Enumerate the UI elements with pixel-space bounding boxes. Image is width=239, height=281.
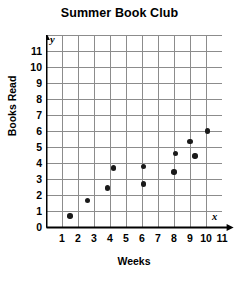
data-point xyxy=(171,169,176,174)
x-axis-title: Weeks xyxy=(45,255,223,267)
y-tick-label: 3 xyxy=(26,174,42,185)
data-point xyxy=(187,139,192,144)
y-tick-label: 10 xyxy=(26,62,42,73)
y-tick-label: 1 xyxy=(26,206,42,217)
y-tick-label: 9 xyxy=(26,78,42,89)
gridlines xyxy=(46,35,222,228)
data-point xyxy=(205,128,210,133)
chart-title: Summer Book Club xyxy=(0,6,239,20)
origin-label: 0 xyxy=(26,222,42,233)
data-point xyxy=(192,153,197,158)
y-tick-label: 6 xyxy=(26,126,42,137)
y-axis-title: Books Read xyxy=(6,64,18,148)
y-tick-label: 5 xyxy=(26,142,42,153)
y-tick-label: 8 xyxy=(26,94,42,105)
data-point xyxy=(111,165,116,170)
data-point xyxy=(67,213,72,218)
y-tick-label: 2 xyxy=(26,190,42,201)
x-tick-label: 11 xyxy=(213,233,231,244)
scatter-plot-figure: Summer Book Club Books Read Weeks y x 0 … xyxy=(0,0,239,281)
data-point xyxy=(105,185,110,190)
plot-area xyxy=(46,35,222,228)
y-tick-label: 7 xyxy=(26,110,42,121)
y-tick-label: 4 xyxy=(26,158,42,169)
data-point xyxy=(141,181,146,186)
y-tick-label: 11 xyxy=(26,46,42,57)
